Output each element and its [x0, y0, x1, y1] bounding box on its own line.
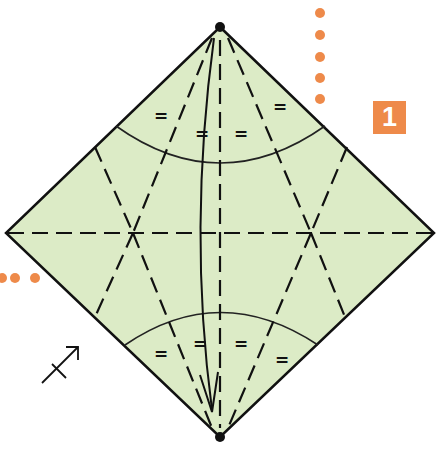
equal-mark: =: [154, 108, 168, 125]
step-number-badge: 1: [373, 101, 406, 134]
equal-mark: =: [154, 346, 168, 363]
equal-mark: =: [275, 352, 289, 369]
repeat-fold-arrow-icon: [42, 347, 78, 383]
top-corner-dot: [215, 22, 225, 32]
bottom-corner-dot: [215, 432, 225, 442]
origami-diagram: [0, 0, 438, 456]
equal-mark: =: [273, 99, 287, 116]
guide-dots-left: [0, 273, 40, 283]
equal-mark: =: [234, 126, 248, 143]
equal-mark: =: [193, 336, 207, 353]
guide-dots-top: [315, 8, 325, 104]
equal-mark: =: [234, 336, 248, 353]
equal-mark: =: [195, 126, 209, 143]
